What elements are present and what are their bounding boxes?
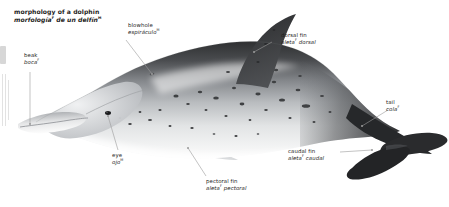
label-dorsal-fin-es: aletaF dorsal	[281, 39, 316, 46]
label-caudal-fin-es: aletaF caudal	[288, 155, 324, 162]
eye-glint	[106, 112, 108, 113]
label-eye: eye ojoM	[112, 152, 123, 165]
dolphin-illustration	[0, 0, 449, 207]
title-es: morfologíaF de un delfínM	[14, 16, 101, 24]
label-caudal-fin-en: caudal fin	[288, 148, 324, 155]
title-en: morphology of a dolphin	[14, 8, 101, 16]
label-beak: beak bocaF	[24, 52, 39, 65]
eye-shape	[105, 111, 111, 115]
illustrated-plate: morphology of a dolphin morfologíaF de u…	[0, 0, 449, 207]
page-title: morphology of a dolphin morfologíaF de u…	[14, 8, 101, 24]
label-eye-es: ojoM	[112, 159, 123, 166]
label-caudal-fin: caudal fin aletaF caudal	[288, 148, 324, 161]
caudal-fin-lower-lobe	[347, 146, 410, 180]
label-beak-es: bocaF	[24, 59, 39, 66]
label-dorsal-fin-en: dorsal fin	[281, 32, 316, 39]
label-pectoral-fin: pectoral fin aletaF pectoral	[206, 178, 247, 191]
label-blowhole-es: espiráculoM	[128, 29, 160, 36]
label-blowhole-en: blowhole	[128, 22, 160, 29]
label-pectoral-fin-en: pectoral fin	[206, 178, 247, 185]
label-tail: tail colaF	[386, 99, 399, 112]
label-blowhole: blowhole espiráculoM	[128, 22, 160, 35]
label-tail-es: colaF	[386, 106, 399, 113]
label-pectoral-fin-es: aletaF pectoral	[206, 185, 247, 192]
label-dorsal-fin: dorsal fin aletaF dorsal	[281, 32, 316, 45]
